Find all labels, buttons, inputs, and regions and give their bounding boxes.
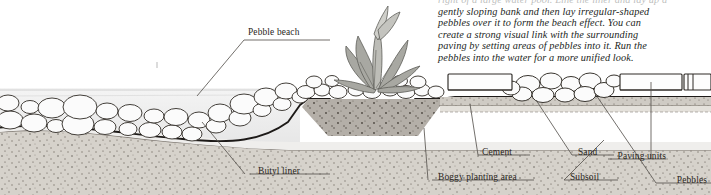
boggy-planting-area-fill xyxy=(302,99,440,136)
label-pebble-beach: Pebble beach xyxy=(248,27,300,37)
illustration-page: right of a large water pool. Line the li… xyxy=(0,0,711,195)
label-subsoil: Subsoil xyxy=(570,172,599,182)
sand-layer xyxy=(440,106,711,112)
label-cement: Cement xyxy=(482,147,512,157)
label-boggy-planting-area: Boggy planting area xyxy=(438,172,517,182)
pond-cross-section-diagram xyxy=(0,0,711,195)
label-pebbles: Pebbles xyxy=(655,175,707,185)
label-paving-units: Paving units xyxy=(610,151,666,161)
label-butyl-liner: Butyl liner xyxy=(258,166,300,176)
label-sand: Sand xyxy=(578,147,597,157)
subsoil-layer xyxy=(0,130,711,195)
